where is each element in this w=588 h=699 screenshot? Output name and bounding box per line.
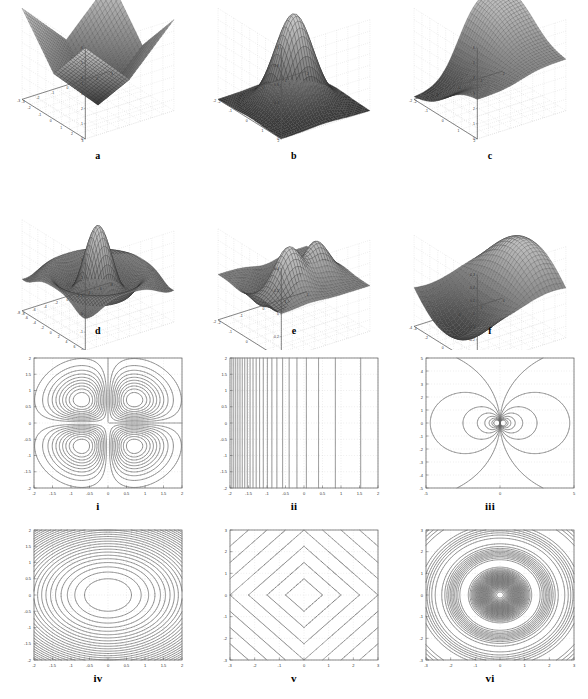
svg-text:0: 0 [442, 119, 444, 123]
svg-text:3: 3 [473, 92, 475, 96]
plot-canvas: -2-1.5-1-0.500.511.52-2-1.5-1-0.500.511.… [196, 350, 392, 522]
svg-text:-0.5: -0.5 [24, 609, 32, 614]
svg-text:3: 3 [81, 92, 83, 96]
svg-text:0: 0 [277, 312, 279, 316]
svg-text:2: 2 [421, 549, 424, 554]
panel-a-plot: 0123456-3-2-10123-3-2-10123 [0, 0, 196, 175]
panel-e-plot: -0.4-0.200.20.4-2-1012-2-1012 [196, 175, 392, 350]
svg-text:-1: -1 [425, 109, 428, 113]
svg-text:-3: -3 [223, 658, 227, 663]
svg-text:0.2: 0.2 [274, 289, 279, 293]
svg-text:-1.5: -1.5 [220, 469, 228, 474]
svg-text:2: 2 [277, 139, 279, 143]
svg-text:-2: -2 [55, 301, 58, 305]
svg-text:3: 3 [573, 663, 576, 668]
svg-text:1: 1 [421, 408, 424, 413]
svg-text:1.5: 1.5 [357, 491, 363, 496]
svg-text:-2: -2 [419, 447, 423, 452]
svg-text:-2: -2 [228, 491, 232, 496]
svg-text:2: 2 [225, 549, 228, 554]
svg-text:2: 2 [548, 663, 551, 668]
svg-text:1.5: 1.5 [161, 663, 167, 668]
plot-canvas: -0.4-0.3-0.2-0.100.10.20.3-4-2024-4-2024 [392, 175, 588, 350]
svg-text:-1: -1 [419, 614, 423, 619]
svg-text:0.4: 0.4 [274, 267, 279, 271]
panel-i: -2-1.5-1-0.500.511.52-2-1.5-1-0.500.511.… [0, 350, 196, 522]
svg-text:-3: -3 [228, 663, 232, 668]
svg-text:2: 2 [96, 77, 98, 81]
contour-group: -3-2-10123-3-2-10123 [223, 528, 379, 669]
svg-text:4: 4 [421, 369, 424, 374]
panel-d-plot: -2-10123-8-6-4-202468-8-6-4-202468 [0, 175, 196, 350]
svg-text:1.5: 1.5 [221, 372, 227, 377]
grid-lines [34, 530, 182, 660]
panel-v-caption: v [196, 672, 392, 684]
svg-text:0.5: 0.5 [124, 663, 130, 668]
svg-text:0.3: 0.3 [470, 273, 475, 277]
svg-text:-1: -1 [69, 663, 73, 668]
svg-text:-1: -1 [474, 663, 478, 668]
mesh-faces [218, 14, 370, 139]
svg-text:0: 0 [421, 593, 424, 598]
contour-group: -2-1.5-1-0.500.511.52-2-1.5-1-0.500.511.… [220, 356, 380, 497]
svg-text:-2: -2 [436, 320, 439, 324]
svg-text:4: 4 [473, 76, 475, 80]
svg-text:-6: -6 [25, 316, 28, 320]
svg-text:-1: -1 [27, 453, 31, 458]
svg-text:-2: -2 [32, 491, 36, 496]
svg-text:0: 0 [50, 119, 52, 123]
svg-text:1: 1 [458, 129, 460, 133]
svg-text:-5: -5 [419, 486, 423, 491]
svg-text:1: 1 [81, 82, 83, 86]
grid-lines [230, 358, 378, 488]
svg-text:1: 1 [225, 388, 228, 393]
svg-text:1.5: 1.5 [25, 544, 31, 549]
svg-text:-2: -2 [425, 336, 428, 340]
svg-text:-1: -1 [27, 625, 31, 630]
svg-text:1: 1 [340, 491, 343, 496]
svg-text:-1.5: -1.5 [49, 491, 57, 496]
svg-text:0: 0 [499, 491, 502, 496]
svg-text:0.5: 0.5 [124, 491, 130, 496]
svg-text:-1: -1 [436, 93, 439, 97]
svg-text:1: 1 [29, 388, 32, 393]
svg-text:-0.2: -0.2 [469, 338, 475, 342]
panel-i-plot: -2-1.5-1-0.500.511.52-2-1.5-1-0.500.511.… [0, 350, 196, 522]
svg-text:-1: -1 [69, 491, 73, 496]
panel-e-caption: e [196, 325, 392, 336]
svg-text:0: 0 [421, 421, 424, 426]
svg-text:0.5: 0.5 [221, 404, 227, 409]
svg-text:2: 2 [473, 107, 475, 111]
svg-text:1: 1 [285, 79, 287, 83]
svg-text:0: 0 [473, 312, 475, 316]
svg-text:0.2: 0.2 [470, 286, 475, 290]
svg-text:-4: -4 [419, 473, 423, 478]
plot-canvas: -3-2-10123-3-2-10123 [196, 522, 392, 694]
svg-text:1: 1 [225, 571, 228, 576]
panel-i-caption: i [0, 500, 196, 512]
plot-canvas: 0123456-2-1012-2-1012 [392, 0, 588, 175]
mesh-faces [414, 0, 566, 101]
panel-ii-plot: -2-1.5-1-0.500.511.52-2-1.5-1-0.500.511.… [196, 350, 392, 522]
svg-text:0.5: 0.5 [25, 404, 31, 409]
svg-text:-2: -2 [419, 636, 423, 641]
panel-a-caption: a [0, 150, 196, 161]
svg-text:6: 6 [74, 345, 76, 349]
svg-text:-0.5: -0.5 [86, 663, 94, 668]
plot-canvas: 0123456-3-2-10123-3-2-10123 [0, 0, 196, 175]
plot-canvas: -3-2-10123-3-2-10123 [392, 522, 588, 694]
svg-text:-0.5: -0.5 [220, 437, 228, 442]
svg-text:2: 2 [181, 663, 184, 668]
panel-a: 0123456-3-2-10123-3-2-10123 a [0, 0, 196, 175]
figure-row-4: -2-1.5-1-0.500.511.52-2-1.5-1-0.500.511.… [0, 522, 588, 694]
svg-text:1: 1 [81, 122, 83, 126]
svg-text:-1: -1 [419, 434, 423, 439]
svg-text:5: 5 [421, 356, 424, 361]
panel-ii-caption: ii [196, 500, 392, 512]
svg-text:0.1: 0.1 [470, 299, 475, 303]
svg-text:1: 1 [144, 491, 147, 496]
svg-text:1: 1 [262, 129, 264, 133]
svg-text:2: 2 [81, 276, 83, 280]
svg-text:2: 2 [29, 528, 32, 533]
svg-text:3: 3 [225, 528, 228, 533]
